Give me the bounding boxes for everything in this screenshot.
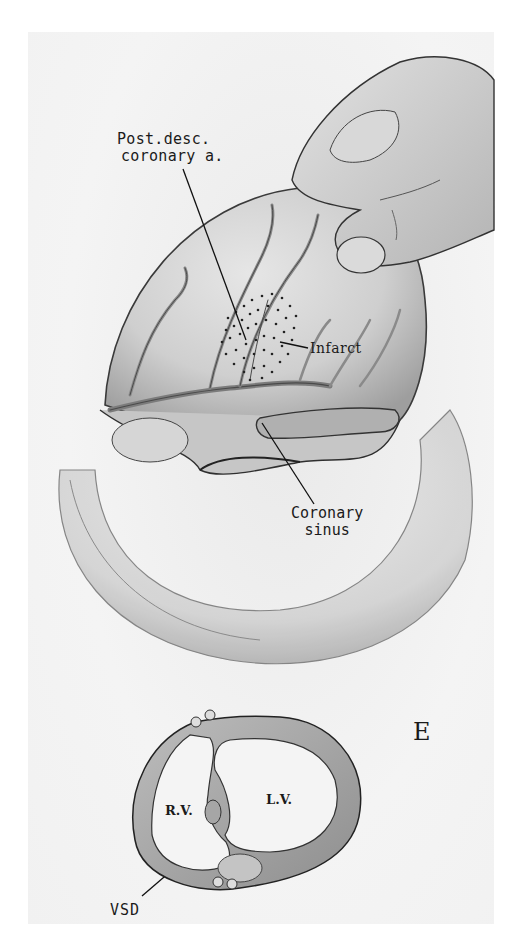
post-desc-coronary-label: Post.desc. coronary a.: [117, 132, 224, 164]
ventricle-cross-section: [133, 710, 361, 890]
surgical-illustration: [0, 0, 526, 947]
coronary-sinus-label-line2: sinus: [291, 523, 363, 538]
coronary-sinus-label-line1: Coronary: [291, 506, 363, 521]
post-desc-label-line1: Post.desc.: [117, 132, 224, 147]
vsd-label: VSD: [110, 903, 140, 918]
coronary-sinus-label: Coronary sinus: [291, 506, 363, 538]
lv-label: L.V.: [266, 793, 292, 806]
panel-letter: E: [413, 720, 431, 744]
post-desc-label-line2: coronary a.: [121, 149, 224, 164]
infarct-label: Infarct: [310, 341, 362, 355]
rv-label: R.V.: [165, 804, 193, 817]
